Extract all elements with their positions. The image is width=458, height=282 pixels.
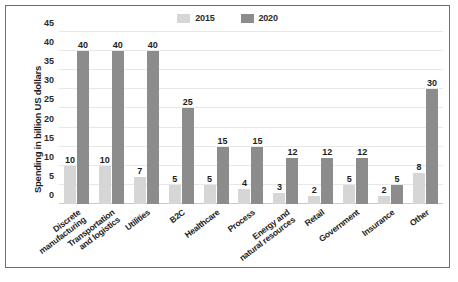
plot-area: 0510152025303540451040Discrete manufactu… <box>59 32 443 204</box>
bar-value-label: 30 <box>427 79 437 88</box>
bar-group: 525B2C <box>164 32 199 204</box>
bar-2015: 10 <box>64 166 76 204</box>
bar-2015: 2 <box>308 196 320 204</box>
bar-value-label: 40 <box>113 41 123 50</box>
bar-value-label: 5 <box>347 175 352 184</box>
y-tick-label: 45 <box>44 19 54 28</box>
bar-value-label: 5 <box>172 175 177 184</box>
y-tick-label: 0 <box>49 191 54 200</box>
bar-value-label: 40 <box>148 41 158 50</box>
bar-2015: 10 <box>99 166 111 204</box>
x-tick-label: B2C <box>168 208 187 225</box>
bar-2020: 5 <box>391 185 403 204</box>
x-tick-label: Process <box>226 208 257 234</box>
legend-item-2020: 2020 <box>241 14 278 23</box>
bar-value-label: 2 <box>312 186 317 195</box>
chart-figure: 2015 2020 Spending in billion US dollars… <box>5 5 450 268</box>
bar-2020: 12 <box>286 158 298 204</box>
y-tick-label: 35 <box>44 57 54 66</box>
bar-group: 830Other <box>408 32 443 204</box>
bar-2020: 15 <box>217 147 229 204</box>
bar-2020: 15 <box>251 147 263 204</box>
bar-value-label: 40 <box>78 41 88 50</box>
bar-2015: 8 <box>413 173 425 204</box>
bar-value-label: 12 <box>287 148 297 157</box>
y-tick-label: 20 <box>44 114 54 123</box>
bar-value-label: 2 <box>382 186 387 195</box>
bar-2015: 4 <box>238 189 250 204</box>
x-tick-label: Retail <box>304 208 327 228</box>
bar-2015: 5 <box>343 185 355 204</box>
bar-group: 1040Transportation and logistics <box>94 32 129 204</box>
bar-value-label: 10 <box>100 156 110 165</box>
x-tick-label: Other <box>408 208 431 228</box>
legend-label-2020: 2020 <box>259 14 278 23</box>
bar-value-label: 3 <box>277 183 282 192</box>
bar-2020: 12 <box>356 158 368 204</box>
bar-value-label: 12 <box>322 148 332 157</box>
bar-2020: 40 <box>77 51 89 204</box>
legend-swatch-2015 <box>177 14 190 23</box>
bar-value-label: 4 <box>242 179 247 188</box>
bar-group: 512Government <box>338 32 373 204</box>
bar-value-label: 7 <box>137 167 142 176</box>
bar-group: 25Insurance <box>373 32 408 204</box>
bar-value-label: 12 <box>357 148 367 157</box>
bar-2015: 5 <box>169 185 181 204</box>
bar-2020: 40 <box>112 51 124 204</box>
bar-value-label: 25 <box>183 98 193 107</box>
bar-2020: 30 <box>426 89 438 204</box>
y-tick-label: 15 <box>44 133 54 142</box>
x-tick-label: Utilities <box>124 208 152 232</box>
y-tick-label: 10 <box>44 152 54 161</box>
legend-item-2015: 2015 <box>177 14 214 23</box>
y-axis-title: Spending in billion US dollars <box>32 50 43 210</box>
legend-label-2015: 2015 <box>195 14 214 23</box>
bar-value-label: 15 <box>218 137 228 146</box>
bar-value-label: 10 <box>65 156 75 165</box>
y-tick-label: 25 <box>44 95 54 104</box>
bar-group: 212Retail <box>303 32 338 204</box>
bar-2020: 40 <box>147 51 159 204</box>
bar-2020: 12 <box>321 158 333 204</box>
bar-value-label: 8 <box>417 163 422 172</box>
bar-group: 415Process <box>234 32 269 204</box>
y-tick-label: 30 <box>44 76 54 85</box>
y-tick-label: 40 <box>44 38 54 47</box>
x-tick-label: Insurance <box>360 208 396 238</box>
bar-2015: 5 <box>204 185 216 204</box>
bar-value-label: 5 <box>395 175 400 184</box>
bar-group: 312Energy and natural resources <box>268 32 303 204</box>
bar-value-label: 15 <box>252 137 262 146</box>
bar-2015: 2 <box>378 196 390 204</box>
bar-2015: 7 <box>134 177 146 204</box>
chart-legend: 2015 2020 <box>6 14 449 23</box>
x-tick-label: Healthcare <box>183 208 221 240</box>
bar-value-label: 5 <box>207 175 212 184</box>
bar-2015: 3 <box>273 193 285 204</box>
y-tick-label: 5 <box>49 171 54 180</box>
legend-swatch-2020 <box>241 14 254 23</box>
bar-group: 1040Discrete manufacturing <box>59 32 94 204</box>
bar-group: 515Healthcare <box>199 32 234 204</box>
bar-group: 740Utilities <box>129 32 164 204</box>
bar-2020: 25 <box>182 108 194 204</box>
